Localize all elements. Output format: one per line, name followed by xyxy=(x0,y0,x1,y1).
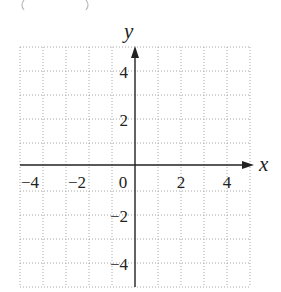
x-tick-label: −2 xyxy=(68,173,86,192)
x-axis-label: x xyxy=(258,152,269,176)
y-axis xyxy=(131,46,139,287)
y-tick-label: 4 xyxy=(120,63,129,82)
x-axis xyxy=(20,161,254,169)
y-axis-arrow-icon xyxy=(131,46,139,58)
y-axis-label: y xyxy=(122,19,134,43)
y-tick-label: −2 xyxy=(110,207,128,226)
x-tick-label: −4 xyxy=(21,173,40,192)
y-tick-label: −4 xyxy=(110,255,129,274)
cropped-header-fragment xyxy=(22,0,88,10)
x-tick-label: 4 xyxy=(223,173,232,192)
y-tick-label: 2 xyxy=(120,111,129,130)
x-axis-arrow-icon xyxy=(242,161,254,169)
x-tick-label: 0 xyxy=(119,173,128,192)
x-tick-label: 2 xyxy=(177,173,186,192)
coordinate-plane: x y −4 −2 0 2 4 4 2 −2 −4 xyxy=(0,0,281,292)
